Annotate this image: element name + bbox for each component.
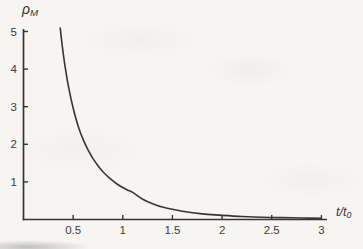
decay-curve-chart: 0.511.522.5312345 bbox=[0, 0, 363, 249]
y-tick-label: 4 bbox=[11, 63, 18, 75]
y-tick-label: 3 bbox=[11, 101, 17, 113]
y-axis-title: ρM bbox=[22, 2, 38, 18]
data-curve bbox=[60, 28, 321, 218]
y-tick-label: 5 bbox=[11, 26, 17, 38]
y-tick-label: 2 bbox=[11, 138, 17, 150]
y-axis-title-subscript: M bbox=[30, 7, 38, 18]
y-axis-title-symbol: ρ bbox=[22, 1, 30, 17]
x-tick-label: 1 bbox=[120, 224, 126, 236]
x-tick-label: 2 bbox=[219, 224, 225, 236]
x-axis-title-subscript: 0 bbox=[346, 210, 351, 220]
scanned-figure-page: 0.511.522.5312345 ρM t/t0 bbox=[0, 0, 363, 249]
x-axis-title: t/t0 bbox=[336, 206, 351, 219]
x-tick-label: 3 bbox=[318, 224, 324, 236]
x-tick-label: 2.5 bbox=[264, 224, 280, 236]
x-tick-label: 0.5 bbox=[65, 224, 81, 236]
x-axis-title-symbol: t/t bbox=[336, 205, 346, 219]
y-tick-label: 1 bbox=[11, 176, 17, 188]
x-tick-label: 1.5 bbox=[164, 224, 180, 236]
